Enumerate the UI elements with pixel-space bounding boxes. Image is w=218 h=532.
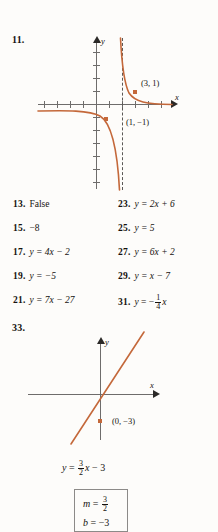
- answer-body: y = 7x − 27: [29, 295, 74, 305]
- answer-number: 31.: [118, 297, 130, 307]
- answer-item-17: 17.y = 4x − 2: [13, 246, 70, 258]
- answer-body-31: y = −14x: [134, 297, 166, 307]
- fraction-denominator: 4: [155, 302, 161, 311]
- fraction-numerator: 3: [102, 496, 108, 504]
- minus-sign: −: [149, 297, 154, 307]
- answer-item-15: 15.−8: [13, 222, 40, 234]
- exercise-number-33: 33.: [12, 322, 25, 333]
- answer-body: False: [29, 199, 49, 209]
- graph-exercise-11: x y (3, 1): [34, 30, 184, 190]
- fraction-three-halves: 32: [78, 460, 84, 477]
- answer-body: y = x − 7: [134, 271, 170, 281]
- answer-list: 13.False 23.y = 2x + 6 15.−8 25.y = 5 17…: [0, 198, 218, 318]
- line-graph: [71, 332, 144, 444]
- fraction-denominator: 2: [78, 468, 84, 477]
- answer-body: −8: [29, 223, 39, 233]
- answer-item-13: 13.False: [13, 198, 50, 210]
- answer-number: 23.: [118, 199, 130, 209]
- answer-number: 13.: [13, 199, 25, 209]
- curve-right-branch: [121, 38, 173, 105]
- slope-line: m = 32: [83, 496, 109, 513]
- answer-body: y = 5: [134, 223, 154, 233]
- fraction-one-fourth: 14: [155, 294, 161, 311]
- variable: x: [85, 462, 89, 473]
- answer-row: 17.y = 4x − 2 27.y = 6x + 2: [0, 246, 218, 270]
- answer-row: 19.y = −5 29.y = x − 7: [0, 270, 218, 294]
- answer-item-19: 19.y = −5: [13, 270, 56, 282]
- plot-point-0-neg3: [98, 419, 102, 423]
- fraction-numerator: 3: [78, 460, 84, 468]
- fraction-three-halves: 32: [102, 496, 108, 513]
- answer-number: 29.: [118, 271, 130, 281]
- answer-number: 17.: [13, 247, 25, 257]
- equation-exercise-33: y = 32x − 3: [62, 460, 105, 477]
- point-label-0-neg3: (0, −3): [112, 416, 135, 426]
- equals-sign: =: [69, 462, 75, 473]
- answer-item-25: 25.y = 5: [118, 222, 155, 234]
- answer-body: y = 6x + 2: [134, 247, 174, 257]
- answer-number: 21.: [13, 295, 25, 305]
- answer-body: y = −5: [29, 271, 56, 281]
- answer-item-23: 23.y = 2x + 6: [118, 198, 175, 210]
- answer-row: 21.y = 7x − 27 31.y = −14x: [0, 294, 218, 318]
- answer-row: 15.−8 25.y = 5: [0, 222, 218, 246]
- fraction-numerator: 1: [155, 294, 161, 302]
- answer-number: 27.: [118, 247, 130, 257]
- graph-exercise-33: x y (0, −3): [28, 332, 188, 452]
- intercept-line: b = −3: [83, 517, 109, 528]
- answer-item-21: 21.y = 7x − 27: [13, 294, 75, 306]
- answer-key-page: 11. x y: [0, 0, 218, 532]
- intercept-value: −3: [99, 517, 110, 528]
- variable: x: [162, 297, 166, 307]
- answer-body: y = 4x − 2: [29, 247, 69, 257]
- curve-left-branch: [38, 111, 120, 190]
- equation-constant: − 3: [92, 462, 105, 473]
- point-label-3-1: (3, 1): [141, 78, 159, 88]
- answer-item-29: 29.y = x − 7: [118, 270, 170, 282]
- answer-item-27: 27.y = 6x + 2: [118, 246, 175, 258]
- answer-body: y = 2x + 6: [134, 199, 174, 209]
- answer-row: 13.False 23.y = 2x + 6: [0, 198, 218, 222]
- answer-number: 25.: [118, 223, 130, 233]
- answer-number: 19.: [13, 271, 25, 281]
- fraction-denominator: 2: [102, 504, 108, 513]
- answer-number: 15.: [13, 223, 25, 233]
- point-label-1-neg1: (1, −1): [126, 117, 149, 127]
- answer-item-31: 31.y = −14x: [118, 294, 166, 311]
- plot-point-1-neg1: [104, 117, 108, 121]
- boxed-answer: m = 32 b = −3: [74, 489, 128, 532]
- plot-point-3-1: [133, 90, 137, 94]
- exercise-number-11: 11.: [12, 34, 25, 45]
